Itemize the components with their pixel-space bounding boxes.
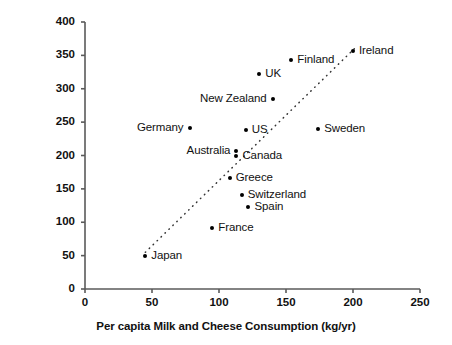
y-tick-label-0: 0 — [41, 283, 75, 295]
x-axis-title: Per capita Milk and Cheese Consumption (… — [0, 320, 452, 332]
y-tick-label-300: 300 — [41, 83, 75, 95]
y-tick-label-250: 250 — [41, 116, 75, 128]
x-tick-label-100: 100 — [199, 297, 239, 309]
data-point-switzerland — [240, 193, 244, 197]
x-tick-label-250: 250 — [400, 297, 440, 309]
data-point-greece — [228, 176, 232, 180]
point-label-ireland: Ireland — [359, 46, 393, 58]
data-point-france — [210, 226, 214, 230]
x-tick-label-0: 0 — [65, 297, 105, 309]
plot-area: 050100150200250300350400 050100150200250… — [0, 0, 452, 345]
y-tick-label-50: 50 — [41, 250, 75, 262]
point-label-germany: Germany — [137, 122, 184, 134]
point-label-us: US — [252, 124, 268, 136]
point-label-spain: Spain — [254, 201, 283, 213]
data-point-germany — [188, 126, 192, 130]
point-label-new-zealand: New Zealand — [200, 94, 267, 106]
point-label-france: France — [218, 222, 253, 234]
data-point-us — [244, 128, 248, 132]
y-tick-label-200: 200 — [41, 150, 75, 162]
point-label-greece: Greece — [236, 172, 273, 184]
x-tick-label-150: 150 — [266, 297, 306, 309]
point-label-japan: Japan — [151, 250, 182, 262]
y-tick-label-400: 400 — [41, 16, 75, 28]
chd-mortality-scatter-chart: 050100150200250300350400 050100150200250… — [0, 0, 452, 345]
point-label-uk: UK — [265, 68, 281, 80]
data-point-sweden — [316, 127, 320, 131]
y-tick-label-150: 150 — [41, 183, 75, 195]
x-tick-label-200: 200 — [333, 297, 373, 309]
x-tick-label-50: 50 — [132, 297, 172, 309]
point-label-switzerland: Switzerland — [248, 189, 306, 201]
data-point-japan — [143, 254, 147, 258]
point-label-canada: Canada — [242, 150, 282, 162]
y-tick-label-350: 350 — [41, 49, 75, 61]
point-label-finland: Finland — [297, 54, 334, 66]
point-label-sweden: Sweden — [324, 123, 365, 135]
point-label-australia: Australia — [187, 145, 231, 157]
y-tick-label-100: 100 — [41, 216, 75, 228]
